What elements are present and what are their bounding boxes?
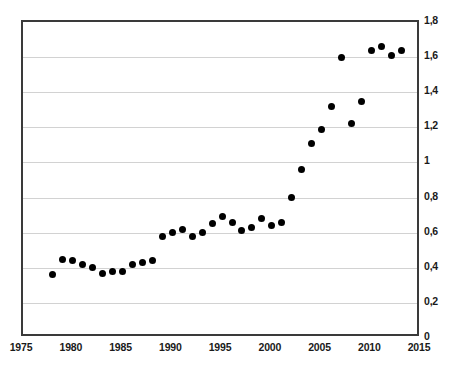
data-point [129,261,136,268]
data-point [209,220,216,227]
data-point [258,215,265,222]
data-point [199,229,206,236]
x-tick-label: 1990 [159,341,182,353]
y-tick-label: 0,6 [424,225,438,237]
data-point [398,47,405,54]
data-point [358,98,365,105]
data-points-layer [23,22,417,334]
data-point [308,140,315,147]
data-point [238,227,245,234]
data-point [149,257,156,264]
y-tick-label: 1,6 [424,49,438,61]
x-tick-label: 2005 [308,341,331,353]
y-tick-label: 1,8 [424,14,438,26]
data-point [79,261,86,268]
data-point [109,268,116,275]
data-point [229,219,236,226]
scatter-chart: 00,20,40,60,811,21,41,61,8 1975198019851… [0,0,455,367]
x-tick-label: 1995 [209,341,232,353]
x-tick-label: 2010 [358,341,381,353]
y-tick-label: 0,8 [424,190,438,202]
x-tick-label: 2000 [259,341,282,353]
data-point [248,224,255,231]
data-point [59,256,66,263]
x-tick-label: 1975 [10,341,33,353]
y-tick-label: 1,2 [424,119,438,131]
data-point [268,222,275,229]
data-point [89,264,96,271]
data-point [318,126,325,133]
y-tick-label: 1,4 [424,84,438,96]
data-point [99,270,106,277]
data-point [189,233,196,240]
plot-area [21,20,419,336]
data-point [378,43,385,50]
x-tick-label: 1980 [60,341,83,353]
x-tick-label: 2015 [408,341,431,353]
data-point [119,268,126,275]
data-point [219,213,226,220]
y-tick-label: 0,4 [424,260,438,272]
data-point [159,233,166,240]
data-point [338,54,345,61]
data-point [278,219,285,226]
data-point [388,52,395,59]
data-point [288,194,295,201]
data-point [49,271,56,278]
y-tick-label: 1 [424,154,430,166]
y-tick-label: 0,2 [424,295,438,307]
data-point [169,229,176,236]
data-point [328,103,335,110]
x-tick-label: 1985 [109,341,132,353]
data-point [139,259,146,266]
data-point [368,47,375,54]
data-point [348,120,355,127]
data-point [179,226,186,233]
data-point [298,166,305,173]
data-point [69,257,76,264]
